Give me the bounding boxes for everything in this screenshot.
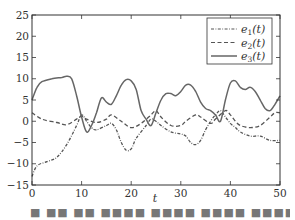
line-chart: 01020304050−15−10−50510152025 t e1(t)e2(… [0, 0, 295, 205]
series-line-1 [32, 111, 280, 177]
x-tick-label: 40 [224, 187, 237, 199]
y-tick-label: 20 [16, 30, 29, 42]
y-tick-label: −15 [7, 179, 29, 191]
x-tick-label: 20 [125, 187, 138, 199]
legend: e1(t)e2(t)e3(t) [207, 18, 272, 64]
y-tick-label: 15 [16, 51, 29, 63]
x-tick-label: 0 [29, 187, 36, 199]
y-tick-label: 0 [22, 115, 29, 127]
y-tick-label: 5 [22, 94, 29, 106]
x-tick-label: 10 [75, 187, 88, 199]
caption-fragment: ■ ■■ ■■ ■■■■ ■■■■ ■■■■ ■■■■ [30, 206, 290, 220]
x-tick-label: 50 [273, 187, 286, 199]
x-axis-title: t [153, 192, 158, 205]
y-tick-label: 10 [16, 72, 29, 84]
legend-label-3: e3(t) [241, 50, 265, 64]
y-tick-label: −10 [7, 157, 29, 169]
legend-label-1: e1(t) [241, 23, 265, 37]
legend-label-2: e2(t) [241, 37, 265, 51]
y-tick-label: −5 [14, 136, 29, 148]
x-tick-label: 30 [174, 187, 187, 199]
y-tick-label: 25 [16, 9, 29, 21]
series-layer [32, 76, 280, 176]
